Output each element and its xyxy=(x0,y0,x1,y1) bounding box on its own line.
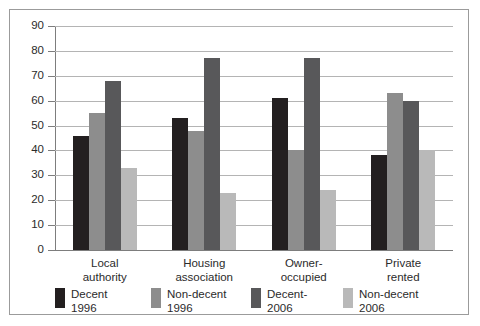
legend-label-line2: 1996 xyxy=(167,301,226,315)
legend-label-line1: Non-decent xyxy=(167,287,226,301)
legend-swatch-icon xyxy=(251,288,261,308)
bar xyxy=(304,58,320,250)
legend-label: Decent-2006 xyxy=(267,287,307,315)
legend-swatch-icon xyxy=(55,288,65,308)
bar xyxy=(172,118,188,250)
legend-label-line2: 2006 xyxy=(267,301,307,315)
x-axis-label-line1: Private xyxy=(343,257,463,271)
bar xyxy=(288,150,304,250)
y-axis-label-50: 50 xyxy=(10,120,44,130)
bar xyxy=(105,81,121,250)
y-axis-label-0: 0 xyxy=(10,244,44,254)
bar-group-2 xyxy=(172,26,236,250)
y-axis-label-40: 40 xyxy=(10,144,44,154)
y-axis-label-10: 10 xyxy=(10,219,44,229)
y-axis-label-90: 90 xyxy=(10,20,44,30)
legend-label-line1: Decent xyxy=(71,287,107,301)
legend-label-line2: 1996 xyxy=(71,301,107,315)
bar xyxy=(188,131,204,250)
y-axis-label-70: 70 xyxy=(10,70,44,80)
y-axis-label-60: 60 xyxy=(10,95,44,105)
legend-label: Non-decent1996 xyxy=(167,287,226,315)
bar-group-4 xyxy=(371,26,435,250)
bar xyxy=(371,155,387,250)
chart-frame: 9080706050403020100 LocalauthorityHousin… xyxy=(9,9,469,315)
gridline-0 xyxy=(55,250,453,251)
chart-legend: Decent1996Non-decent1996Decent-2006Non-d… xyxy=(55,287,475,319)
y-axis-label-30: 30 xyxy=(10,169,44,179)
bar xyxy=(320,190,336,250)
legend-label-line1: Non-decent xyxy=(359,287,418,301)
bar xyxy=(272,98,288,250)
bar-group-3 xyxy=(272,26,336,250)
legend-label: Decent1996 xyxy=(71,287,107,315)
bar xyxy=(220,193,236,250)
x-axis-label-line2: rented xyxy=(343,271,463,285)
bar xyxy=(73,136,89,250)
bar xyxy=(403,101,419,250)
plot-area xyxy=(55,26,453,250)
legend-label-line2: 2006 xyxy=(359,301,418,315)
bar xyxy=(89,113,105,250)
bar xyxy=(121,168,137,250)
x-axis-label-4: Privaterented xyxy=(343,257,463,284)
y-axis-label-80: 80 xyxy=(10,45,44,55)
bar xyxy=(387,93,403,250)
legend-label-line1: Decent- xyxy=(267,287,307,301)
bar-group-1 xyxy=(73,26,137,250)
y-axis-label-20: 20 xyxy=(10,194,44,204)
legend-swatch-icon xyxy=(151,288,161,308)
legend-swatch-icon xyxy=(343,288,353,308)
bar xyxy=(419,150,435,250)
legend-label: Non-decent2006 xyxy=(359,287,418,315)
bar xyxy=(204,58,220,250)
